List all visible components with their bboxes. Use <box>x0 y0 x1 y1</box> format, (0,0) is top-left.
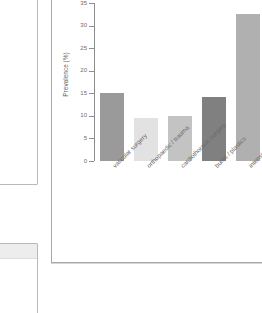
y-tick-35: 35 <box>89 3 94 4</box>
y-axis-title: Prevalence (%) <box>62 35 69 115</box>
y-tick-label: 5 <box>84 134 87 142</box>
y-tick-label: 35 <box>80 0 87 7</box>
y-tick-25: 25 <box>89 48 94 49</box>
x-axis-labels: vascular surgeryorthopaedic / traumacard… <box>95 161 262 256</box>
document-page-thumbnail-bottom[interactable] <box>0 243 38 313</box>
document-page-thumbnail-top[interactable]: ct <box>0 0 38 185</box>
y-tick-label: 20 <box>80 66 87 74</box>
y-tick-30: 30 <box>89 26 94 27</box>
panel-header-bar <box>0 244 37 259</box>
y-tick-label: 10 <box>80 111 87 119</box>
y-tick-20: 20 <box>89 71 94 72</box>
y-tick-10: 10 <box>89 116 94 117</box>
y-tick-label: 15 <box>80 89 87 97</box>
y-tick-15: 15 <box>89 93 94 94</box>
y-tick-label: 25 <box>80 44 87 52</box>
bar-chart: 05101520253035 Prevalence (%) vascular s… <box>52 0 262 264</box>
y-tick-label: 0 <box>84 157 87 165</box>
y-tick-5: 5 <box>89 138 94 139</box>
y-tick-0: 0 <box>89 161 94 162</box>
bar-0[interactable] <box>100 93 125 161</box>
y-tick-label: 30 <box>80 21 87 29</box>
page-bottom-edge <box>51 263 262 264</box>
chart-panel[interactable]: 05101520253035 Prevalence (%) vascular s… <box>51 0 262 263</box>
